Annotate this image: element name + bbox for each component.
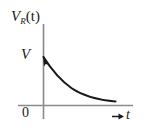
- y-axis-label-argument: (t): [26, 8, 40, 24]
- x-axis-arrow-icon: [112, 114, 124, 120]
- origin-label: 0: [22, 106, 29, 120]
- x-axis-label: t: [126, 108, 130, 122]
- y-axis-label-main: V: [11, 8, 20, 24]
- y-axis-value-label-v: V: [21, 47, 30, 62]
- decay-curve: [44, 57, 116, 102]
- y-axis-label: VR(t): [11, 9, 40, 26]
- voltage-decay-figure: VR(t) V 0 t: [0, 0, 146, 137]
